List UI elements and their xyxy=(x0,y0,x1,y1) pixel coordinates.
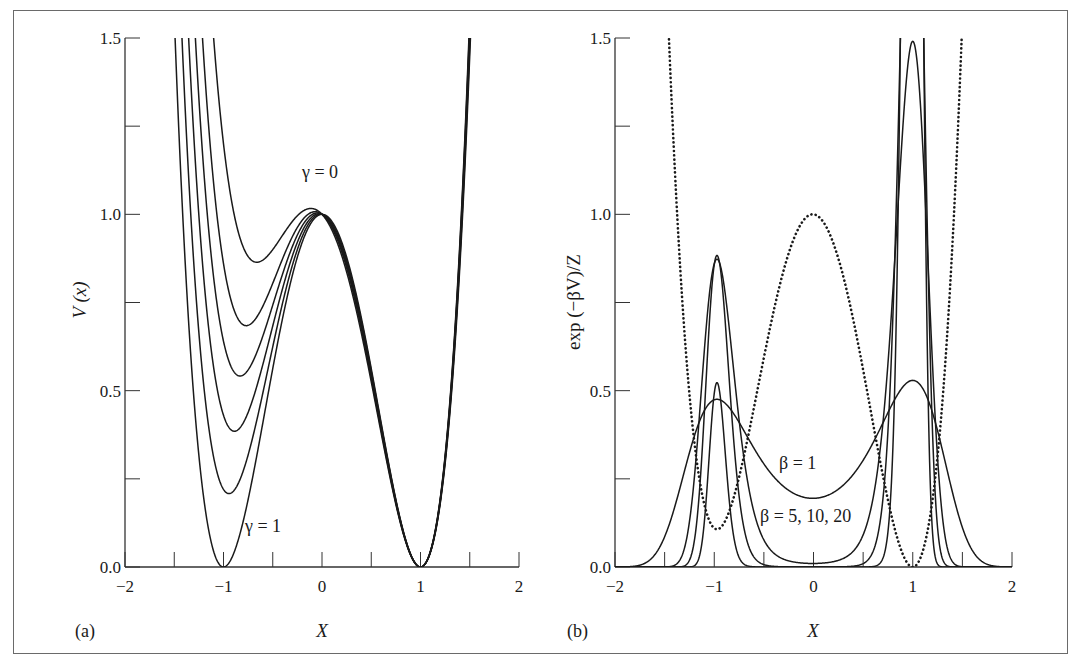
y-tick-label: 1.0 xyxy=(590,205,611,224)
x-tick-label: 1 xyxy=(909,577,918,596)
x-tick-label: 2 xyxy=(515,577,524,596)
boltzmann-curve xyxy=(615,0,1012,567)
panel-a-axes: −2−10120.00.51.01.5 xyxy=(100,29,524,596)
x-tick-label: −2 xyxy=(606,577,624,596)
y-tick-label: 0.0 xyxy=(100,558,121,577)
y-tick-label: 0.5 xyxy=(100,382,121,401)
y-tick-label: 1.5 xyxy=(100,29,121,48)
annotation-beta-1: β = 1 xyxy=(779,453,816,473)
boltzmann-curve xyxy=(615,380,1012,567)
potential-dotted-curve xyxy=(615,0,1012,567)
x-tick-label: −1 xyxy=(214,577,232,596)
y-tick-label: 1.5 xyxy=(590,29,611,48)
panel-a-curves xyxy=(125,0,519,567)
panel-a-ylabel: V (x) xyxy=(69,281,91,318)
panel-b-label: (b) xyxy=(567,621,588,642)
annotation-gamma-0: γ = 0 xyxy=(301,162,338,182)
panel-b-xlabel: X xyxy=(806,620,820,641)
panel-a-potential-chart: −2−10120.00.51.01.5 V (x) X (a) γ = 0 γ … xyxy=(69,0,523,642)
y-tick-label: 0.0 xyxy=(590,558,611,577)
annotation-beta-5-10-20: β = 5, 10, 20 xyxy=(760,506,851,526)
y-tick-label: 0.5 xyxy=(590,382,611,401)
x-tick-label: 2 xyxy=(1008,577,1017,596)
figure-canvas: −2−10120.00.51.01.5 V (x) X (a) γ = 0 γ … xyxy=(0,0,1077,663)
panel-a-label: (a) xyxy=(75,621,95,642)
x-tick-label: −1 xyxy=(705,577,723,596)
potential-curve xyxy=(125,0,519,567)
panel-b-boltzmann-chart: −2−10120.00.51.01.5 exp (−βV)/Z X (b) β … xyxy=(563,0,1016,642)
panel-b-curves xyxy=(615,0,1012,567)
boltzmann-curve xyxy=(615,0,1012,567)
y-tick-label: 1.0 xyxy=(100,205,121,224)
annotation-gamma-1: γ = 1 xyxy=(244,516,281,536)
boltzmann-curve xyxy=(615,41,1012,567)
panel-b-ylabel: exp (−βV)/Z xyxy=(563,254,585,350)
x-tick-label: 0 xyxy=(809,577,818,596)
x-tick-label: 1 xyxy=(416,577,425,596)
panel-a-xlabel: X xyxy=(315,620,329,641)
x-tick-label: 0 xyxy=(318,577,327,596)
x-tick-label: −2 xyxy=(116,577,134,596)
